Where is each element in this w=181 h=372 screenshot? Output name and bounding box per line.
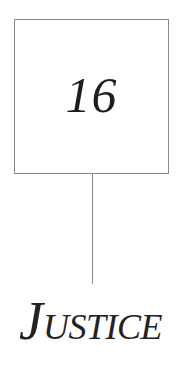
chapter-number-box: 16 (14, 19, 169, 174)
chapter-title-rest: USTICE (43, 307, 162, 347)
chapter-number: 16 (66, 70, 118, 120)
chapter-title: JUSTICE (0, 294, 181, 348)
chapter-title-initial: J (19, 291, 43, 351)
connector-line (92, 174, 93, 284)
